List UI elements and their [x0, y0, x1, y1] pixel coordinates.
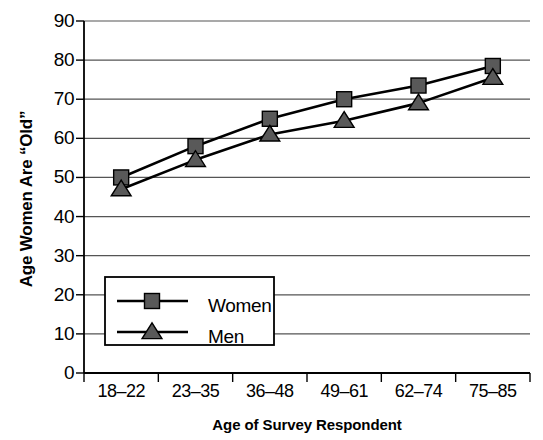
line-chart: Age Women Are “Old” Age of Survey Respon… [0, 0, 543, 440]
data-point-marker-square [411, 78, 426, 93]
y-axis-tick-label: 50 [32, 167, 74, 186]
y-axis-tick-label: 10 [32, 324, 74, 343]
y-axis-tick-label: 70 [32, 89, 74, 108]
y-axis-tick-label: 40 [32, 207, 74, 226]
y-axis-tick-label: 60 [32, 128, 74, 147]
series-line-men [121, 78, 493, 189]
plot-area [0, 0, 543, 440]
series-line-women [121, 66, 493, 177]
y-axis-tick-label: 0 [32, 363, 74, 382]
legend-label-women: Women [208, 296, 272, 315]
data-point-marker-square [337, 92, 352, 107]
data-point-marker-square [145, 294, 160, 309]
y-axis-tick-label: 90 [32, 11, 74, 30]
x-axis-tick-label: 75–85 [448, 381, 538, 401]
y-axis-tick-label: 30 [32, 246, 74, 265]
x-axis-title: Age of Survey Respondent [84, 416, 530, 433]
legend-label-men: Men [208, 327, 244, 346]
y-axis-tick-label: 20 [32, 285, 74, 304]
y-axis-tick-label: 80 [32, 50, 74, 69]
